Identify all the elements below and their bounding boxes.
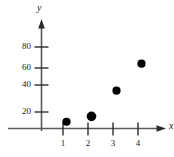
x-axis-arrowhead (157, 125, 167, 131)
x-tick-label-2: 2 (80, 139, 96, 148)
y-tick-label-60: 60 (8, 63, 31, 72)
data-point (112, 87, 120, 95)
x-tick-label-1: 1 (55, 139, 71, 148)
data-point (87, 112, 97, 122)
y-axis-arrowhead (38, 19, 45, 29)
y-tick-label-40: 40 (8, 80, 31, 89)
y-tick-label-80: 80 (8, 42, 31, 51)
x-tick-label-4: 4 (130, 139, 146, 148)
data-point (62, 118, 70, 126)
data-point (137, 60, 145, 68)
x-tick-label-3: 3 (105, 139, 121, 148)
y-tick-label-20: 20 (8, 107, 31, 116)
x-axis-label: x (169, 121, 173, 131)
scatter-plot-figure: 80 60 40 20 1 2 3 4 y x (0, 0, 174, 157)
y-axis-label: y (37, 3, 41, 13)
